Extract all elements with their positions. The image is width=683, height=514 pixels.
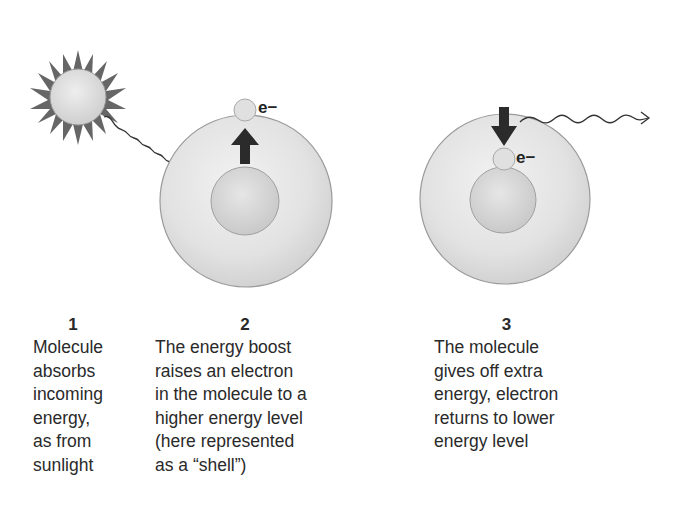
caption-line: raises an electron [155, 360, 335, 384]
caption-line: sunlight [33, 454, 133, 478]
step-2-caption: 2 The energy boost raises an electron in… [155, 314, 335, 477]
step-3-caption: 3 The molecule gives off extra energy, e… [434, 314, 594, 454]
caption-line: in the molecule to a [155, 383, 335, 407]
step-1-caption: 1 Molecule absorbs incoming energy, as f… [33, 314, 133, 477]
caption-line: returns to lower [434, 407, 594, 431]
electron [234, 99, 256, 121]
caption-line: The molecule [434, 336, 594, 360]
molecule-excited [160, 99, 332, 287]
caption-line: energy, [33, 407, 133, 431]
caption-line: higher energy level [155, 407, 335, 431]
caption-line: energy, electron [434, 383, 594, 407]
caption-line: The energy boost [155, 336, 335, 360]
step-2-number: 2 [155, 314, 335, 336]
caption-line: incoming [33, 383, 133, 407]
electron-label: e− [258, 98, 277, 117]
inner-core [211, 167, 279, 235]
electron [493, 148, 515, 170]
caption-line: as from [33, 430, 133, 454]
caption-line: Molecule [33, 336, 133, 360]
caption-line: absorbs [33, 360, 133, 384]
step-3-number: 3 [434, 314, 579, 336]
inner-core [470, 167, 536, 233]
caption-line: energy level [434, 430, 594, 454]
electron-label: e− [516, 148, 535, 167]
caption-line: as a “shell”) [155, 454, 335, 478]
molecule-relaxed [420, 107, 590, 284]
sun-icon [30, 50, 126, 145]
caption-line: (here represented [155, 430, 335, 454]
caption-line: gives off extra [434, 360, 594, 384]
step-1-number: 1 [33, 314, 113, 336]
